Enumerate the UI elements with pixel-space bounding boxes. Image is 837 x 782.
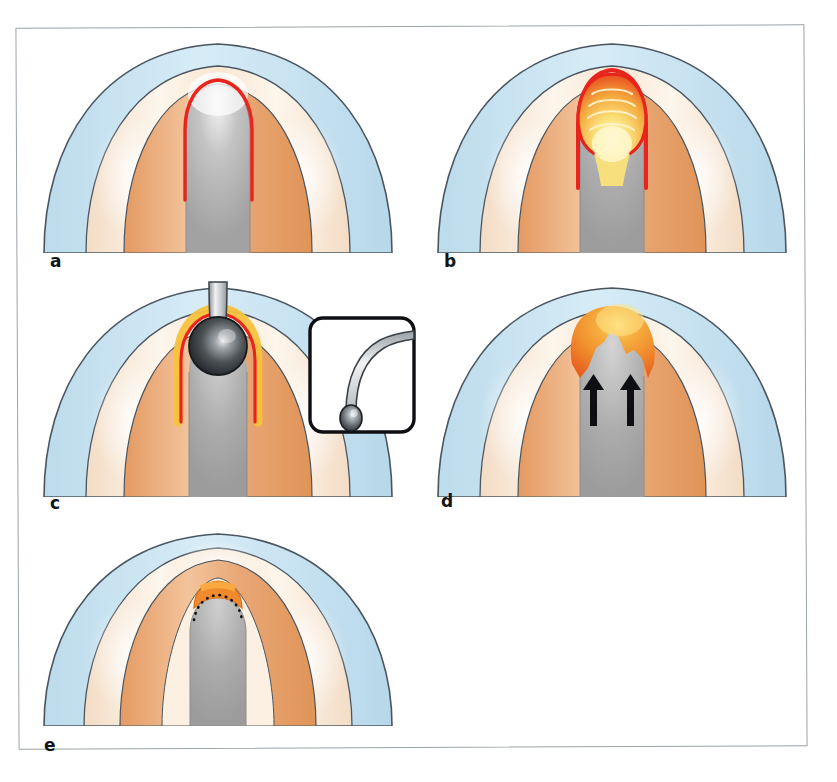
panel-label-e: e [44,735,56,755]
panel-d [422,272,802,497]
figure-container: a [0,0,837,782]
panel-label-b: b [444,251,456,271]
panel-b [422,28,802,253]
inset-probe-ball [340,405,362,431]
panel-label-c: c [50,493,60,513]
lumen-column [190,594,246,726]
panel-e [28,516,408,726]
panel-a [28,28,408,253]
probe-sphere [189,317,247,375]
panel-label-d: d [441,491,453,511]
panel-label-a: a [50,251,61,271]
panel-c [28,272,418,497]
ball-tipped-probe-inset [310,318,414,432]
